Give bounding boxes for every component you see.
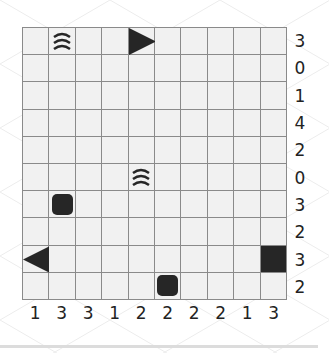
grid-cell-r3-c5[interactable] <box>155 110 181 137</box>
grid-cell-r7-c3[interactable] <box>102 218 128 245</box>
grid-cell-r0-c4[interactable] <box>129 28 155 55</box>
grid-cell-r7-c2[interactable] <box>76 218 102 245</box>
grid-cell-r4-c6[interactable] <box>181 137 207 164</box>
grid-cell-r5-c5[interactable] <box>155 164 181 191</box>
grid-cell-r1-c6[interactable] <box>181 55 207 82</box>
grid-cell-r0-c3[interactable] <box>102 28 128 55</box>
grid-cell-r1-c0[interactable] <box>23 55 49 82</box>
grid-cell-r8-c4[interactable] <box>129 246 155 273</box>
grid-cell-r8-c3[interactable] <box>102 246 128 273</box>
grid-cell-r3-c1[interactable] <box>49 110 75 137</box>
grid-cell-r1-c3[interactable] <box>102 55 128 82</box>
grid-cell-r9-c6[interactable] <box>181 273 207 300</box>
grid-cell-r6-c9[interactable] <box>261 191 287 218</box>
grid-cell-r9-c2[interactable] <box>76 273 102 300</box>
grid-cell-r7-c8[interactable] <box>234 218 260 245</box>
grid-cell-r8-c8[interactable] <box>234 246 260 273</box>
grid-cell-r8-c5[interactable] <box>155 246 181 273</box>
grid-cell-r1-c8[interactable] <box>234 55 260 82</box>
grid-cell-r6-c8[interactable] <box>234 191 260 218</box>
grid-cell-r5-c7[interactable] <box>208 164 234 191</box>
grid-cell-r9-c7[interactable] <box>208 273 234 300</box>
grid-cell-r2-c8[interactable] <box>234 82 260 109</box>
grid-cell-r2-c0[interactable] <box>23 82 49 109</box>
grid-cell-r7-c5[interactable] <box>155 218 181 245</box>
grid-cell-r9-c5[interactable] <box>155 273 181 300</box>
grid-cell-r2-c6[interactable] <box>181 82 207 109</box>
grid-cell-r3-c8[interactable] <box>234 110 260 137</box>
grid-cell-r9-c1[interactable] <box>49 273 75 300</box>
grid-cell-r5-c2[interactable] <box>76 164 102 191</box>
grid-cell-r9-c3[interactable] <box>102 273 128 300</box>
grid-cell-r5-c9[interactable] <box>261 164 287 191</box>
grid-cell-r4-c3[interactable] <box>102 137 128 164</box>
grid-cell-r6-c6[interactable] <box>181 191 207 218</box>
grid-cell-r8-c0[interactable] <box>23 246 49 273</box>
grid-cell-r3-c9[interactable] <box>261 110 287 137</box>
grid-cell-r4-c1[interactable] <box>49 137 75 164</box>
grid-cell-r2-c2[interactable] <box>76 82 102 109</box>
grid-cell-r7-c4[interactable] <box>129 218 155 245</box>
grid-cell-r9-c8[interactable] <box>234 273 260 300</box>
grid-cell-r0-c8[interactable] <box>234 28 260 55</box>
grid-cell-r4-c7[interactable] <box>208 137 234 164</box>
grid-cell-r1-c2[interactable] <box>76 55 102 82</box>
grid-cell-r1-c5[interactable] <box>155 55 181 82</box>
grid-cell-r0-c1[interactable] <box>49 28 75 55</box>
grid-cell-r4-c9[interactable] <box>261 137 287 164</box>
grid-cell-r6-c2[interactable] <box>76 191 102 218</box>
grid-cell-r3-c4[interactable] <box>129 110 155 137</box>
grid-cell-r5-c4[interactable] <box>129 164 155 191</box>
grid-cell-r3-c3[interactable] <box>102 110 128 137</box>
grid-cell-r4-c2[interactable] <box>76 137 102 164</box>
grid-cell-r6-c0[interactable] <box>23 191 49 218</box>
grid-cell-r2-c3[interactable] <box>102 82 128 109</box>
grid-cell-r2-c5[interactable] <box>155 82 181 109</box>
grid-cell-r7-c6[interactable] <box>181 218 207 245</box>
grid-cell-r0-c7[interactable] <box>208 28 234 55</box>
grid-cell-r8-c2[interactable] <box>76 246 102 273</box>
grid-cell-r1-c9[interactable] <box>261 55 287 82</box>
grid-cell-r9-c0[interactable] <box>23 273 49 300</box>
grid-cell-r4-c0[interactable] <box>23 137 49 164</box>
grid-cell-r7-c0[interactable] <box>23 218 49 245</box>
grid-cell-r3-c2[interactable] <box>76 110 102 137</box>
grid-cell-r0-c2[interactable] <box>76 28 102 55</box>
grid-cell-r2-c9[interactable] <box>261 82 287 109</box>
grid-cell-r0-c9[interactable] <box>261 28 287 55</box>
grid-cell-r8-c9[interactable] <box>261 246 287 273</box>
grid-cell-r3-c0[interactable] <box>23 110 49 137</box>
grid-cell-r8-c6[interactable] <box>181 246 207 273</box>
grid-cell-r4-c4[interactable] <box>129 137 155 164</box>
grid-cell-r0-c5[interactable] <box>155 28 181 55</box>
grid-cell-r5-c0[interactable] <box>23 164 49 191</box>
grid-cell-r9-c9[interactable] <box>261 273 287 300</box>
grid-cell-r6-c7[interactable] <box>208 191 234 218</box>
grid-cell-r5-c1[interactable] <box>49 164 75 191</box>
grid-cell-r6-c3[interactable] <box>102 191 128 218</box>
grid-cell-r7-c1[interactable] <box>49 218 75 245</box>
grid-cell-r0-c6[interactable] <box>181 28 207 55</box>
grid-cell-r0-c0[interactable] <box>23 28 49 55</box>
grid-cell-r3-c7[interactable] <box>208 110 234 137</box>
grid-cell-r4-c5[interactable] <box>155 137 181 164</box>
grid-cell-r6-c1[interactable] <box>49 191 75 218</box>
grid-cell-r2-c7[interactable] <box>208 82 234 109</box>
grid-cell-r9-c4[interactable] <box>129 273 155 300</box>
grid-cell-r7-c7[interactable] <box>208 218 234 245</box>
grid-cell-r6-c4[interactable] <box>129 191 155 218</box>
grid-cell-r1-c1[interactable] <box>49 55 75 82</box>
grid-cell-r6-c5[interactable] <box>155 191 181 218</box>
grid-cell-r8-c7[interactable] <box>208 246 234 273</box>
grid-cell-r4-c8[interactable] <box>234 137 260 164</box>
grid-cell-r1-c7[interactable] <box>208 55 234 82</box>
grid-cell-r2-c4[interactable] <box>129 82 155 109</box>
grid-cell-r2-c1[interactable] <box>49 82 75 109</box>
grid-cell-r7-c9[interactable] <box>261 218 287 245</box>
grid-cell-r5-c8[interactable] <box>234 164 260 191</box>
grid-cell-r5-c3[interactable] <box>102 164 128 191</box>
grid-cell-r3-c6[interactable] <box>181 110 207 137</box>
grid-cell-r8-c1[interactable] <box>49 246 75 273</box>
grid-cell-r1-c4[interactable] <box>129 55 155 82</box>
grid-cell-r5-c6[interactable] <box>181 164 207 191</box>
